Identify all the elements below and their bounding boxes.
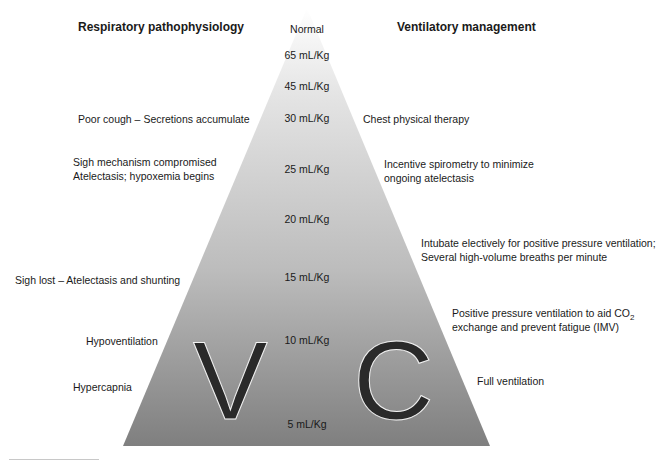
- footer-rule: [9, 459, 99, 460]
- mgmt-intubate: Intubate electively for positive pressur…: [421, 236, 656, 250]
- volume-65: 65 mL/Kg: [267, 49, 347, 61]
- header-ventilatory-management: Ventilatory management: [397, 20, 536, 34]
- mgmt-ongoing-atelectasis: ongoing atelectasis: [384, 171, 474, 185]
- patho-atelectasis-hypoxemia: Atelectasis; hypoxemia begins: [73, 169, 214, 183]
- volume-15: 15 mL/Kg: [267, 271, 347, 283]
- patho-sigh-compromised: Sigh mechanism compromised: [73, 155, 217, 169]
- patho-poor-cough: Poor cough – Secretions accumulate: [78, 112, 250, 126]
- mgmt-exchange-fatigue: exchange and prevent fatigue (IMV): [452, 320, 619, 334]
- volume-5: 5 mL/Kg: [267, 418, 347, 430]
- mgmt-chest-therapy: Chest physical therapy: [363, 112, 469, 126]
- patho-sigh-lost: Sigh lost – Atelectasis and shunting: [15, 273, 180, 287]
- letter-c: C: [353, 325, 434, 437]
- patho-hypoventilation: Hypoventilation: [86, 334, 158, 348]
- volume-30: 30 mL/Kg: [267, 112, 347, 124]
- volume-normal: Normal: [267, 23, 347, 35]
- mgmt-high-volume-breaths: Several high-volume breaths per minute: [421, 250, 607, 264]
- patho-hypercapnia: Hypercapnia: [73, 380, 132, 394]
- header-pathophysiology: Respiratory pathophysiology: [78, 20, 244, 34]
- mgmt-full-ventilation: Full ventilation: [477, 374, 544, 388]
- volume-25: 25 mL/Kg: [267, 163, 347, 175]
- subscript-2: 2: [630, 313, 634, 322]
- volume-10: 10 mL/Kg: [267, 334, 347, 346]
- volume-45: 45 mL/Kg: [267, 80, 347, 92]
- mgmt-incentive-spirometry: Incentive spirometry to minimize: [384, 157, 534, 171]
- mgmt-ppv-text: Positive pressure ventilation to aid CO: [452, 307, 630, 319]
- volume-20: 20 mL/Kg: [267, 213, 347, 225]
- letter-v: V: [193, 325, 268, 437]
